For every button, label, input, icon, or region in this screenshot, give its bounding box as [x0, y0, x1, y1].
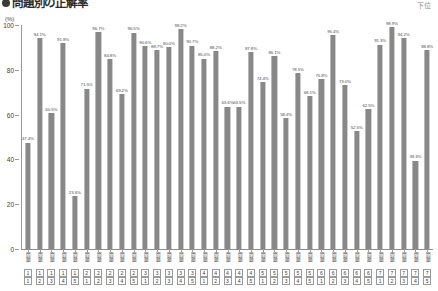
bar[interactable]	[237, 107, 242, 249]
x-label-group-number: 1	[36, 269, 44, 277]
bar[interactable]	[354, 131, 359, 249]
bar[interactable]	[319, 79, 324, 249]
bar-slot: 91.3%	[374, 25, 386, 249]
bar[interactable]	[366, 109, 371, 249]
bar[interactable]	[331, 35, 336, 249]
bar-value-label: 47.4%	[22, 136, 34, 141]
x-label-item-number: 5	[188, 277, 196, 285]
bar-value-label: 71.5%	[81, 82, 93, 87]
bar-slot: 91.8%	[57, 25, 69, 249]
x-label-item-number: 1	[200, 277, 208, 285]
x-label-item-number: 3	[282, 277, 290, 285]
bar[interactable]	[119, 94, 124, 249]
y-tick-label: 20	[7, 201, 14, 208]
x-tick-label-7-3: 問題73	[400, 252, 408, 285]
x-tick-label-4-4: 問題44	[235, 252, 243, 285]
x-label-group-number: 6	[364, 269, 372, 277]
bar-value-label: 84.8%	[104, 53, 116, 58]
bar[interactable]	[25, 143, 30, 249]
x-label-prefix: 問題	[225, 252, 230, 268]
bar-value-label: 78.5%	[292, 67, 304, 72]
x-label-item-number: 3	[165, 277, 173, 285]
bar[interactable]	[225, 107, 230, 249]
x-label-group-number: 3	[188, 269, 196, 277]
bar[interactable]	[295, 73, 300, 249]
y-tick-mark	[15, 249, 19, 250]
bar[interactable]	[49, 113, 54, 249]
x-label-item-number: 4	[118, 277, 126, 285]
bar[interactable]	[60, 43, 65, 249]
bar[interactable]	[96, 32, 101, 249]
x-label-item-number: 4	[177, 277, 185, 285]
x-label-prefix: 問題	[307, 252, 312, 268]
y-tick-mark	[15, 115, 19, 116]
y-tick-label: 0	[10, 246, 14, 253]
bar[interactable]	[378, 45, 383, 250]
bar-series: 47.4%94.1%60.5%91.8%23.6%71.5%96.7%84.8%…	[22, 25, 433, 249]
bar-value-label: 63.5%	[233, 100, 245, 105]
bar[interactable]	[425, 50, 430, 249]
bar-value-label: 75.8%	[315, 73, 327, 78]
bar[interactable]	[342, 85, 347, 249]
y-tick-label: 40	[7, 156, 14, 163]
bar[interactable]	[401, 38, 406, 249]
bar[interactable]	[107, 59, 112, 249]
bar[interactable]	[272, 56, 277, 249]
bar-value-label: 62.5%	[362, 103, 374, 108]
bar-slot: 96.5%	[128, 25, 140, 249]
bar[interactable]	[389, 27, 394, 249]
bar-slot: 52.5%	[351, 25, 363, 249]
bar-slot: 84.8%	[104, 25, 116, 249]
bar[interactable]	[413, 161, 418, 249]
x-label-item-number: 5	[423, 277, 431, 285]
x-tick-label-3-1: 問題31	[141, 252, 149, 285]
x-tick-label-1-1: 問題11	[24, 252, 32, 285]
x-label-item-number: 4	[411, 277, 419, 285]
x-label-prefix: 問題	[389, 252, 394, 268]
bar-value-label: 58.4%	[280, 112, 292, 117]
x-label-prefix: 問題	[295, 252, 300, 268]
x-label-prefix: 問題	[37, 252, 42, 268]
bar[interactable]	[37, 38, 42, 249]
x-label-prefix: 問題	[413, 252, 418, 268]
bar-slot: 95.4%	[327, 25, 339, 249]
y-tick-mark	[15, 25, 19, 26]
x-label-item-number: 1	[259, 277, 267, 285]
chart-header: 問題別の正解率 下位	[0, 0, 438, 13]
bar[interactable]	[284, 118, 289, 249]
bar[interactable]	[166, 47, 171, 249]
bar-slot: 86.1%	[269, 25, 281, 249]
bar[interactable]	[190, 46, 195, 249]
bar-slot: 73.0%	[339, 25, 351, 249]
bar[interactable]	[143, 46, 148, 249]
x-label-item-number: 5	[364, 277, 372, 285]
bar-value-label: 39.3%	[409, 154, 421, 159]
bar[interactable]	[154, 50, 159, 249]
bar[interactable]	[178, 29, 183, 249]
bar-slot: 39.3%	[410, 25, 422, 249]
x-label-group-number: 2	[94, 269, 102, 277]
x-label-item-number: 5	[130, 277, 138, 285]
x-label-prefix: 問題	[108, 252, 113, 268]
x-label-group-number: 2	[106, 269, 114, 277]
bar[interactable]	[72, 196, 77, 249]
x-label-group-number: 1	[59, 269, 67, 277]
x-label-group-number: 4	[235, 269, 243, 277]
bar[interactable]	[84, 89, 89, 249]
x-label-item-number: 2	[212, 277, 220, 285]
x-label-group-number: 1	[71, 269, 79, 277]
bar[interactable]	[201, 59, 206, 249]
bar-value-label: 23.6%	[69, 190, 81, 195]
x-label-prefix: 問題	[166, 252, 171, 268]
x-tick-label-4-2: 問題42	[212, 252, 220, 285]
bar-slot: 94.1%	[34, 25, 46, 249]
bar[interactable]	[248, 52, 253, 249]
bar[interactable]	[213, 51, 218, 249]
bar-slot: 47.4%	[22, 25, 34, 249]
bar-slot: 98.9%	[386, 25, 398, 249]
x-label-group-number: 4	[200, 269, 208, 277]
bar-value-label: 86.1%	[268, 50, 280, 55]
bar[interactable]	[260, 82, 265, 249]
bar[interactable]	[131, 33, 136, 249]
bar[interactable]	[307, 96, 312, 249]
